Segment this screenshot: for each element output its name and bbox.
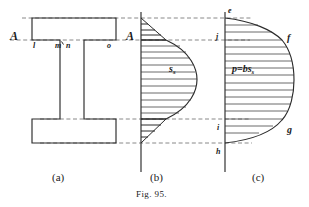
axis-label-A-right: A [126, 30, 134, 42]
panel-b-flange-bottom-triangle [141, 119, 166, 143]
corner-label-e: e [228, 7, 232, 15]
corner-label-h: h [216, 148, 220, 156]
flow-stress-subscript: s [252, 68, 255, 75]
panel-c-flow-curve [225, 18, 294, 143]
panel-caption-c: (c) [252, 172, 264, 183]
corner-label-g: g [287, 125, 292, 135]
corner-label-f: f [287, 33, 290, 43]
flange-top-taper [141, 18, 166, 40]
ibeam-outline [32, 18, 116, 143]
point-label-l: l [33, 42, 35, 50]
corner-label-i: i [217, 124, 219, 132]
figure-caption: Fig. 95. [136, 190, 167, 199]
panel-b-flange-top-triangle [141, 18, 166, 40]
point-label-m: m [55, 42, 61, 50]
point-label-n: n [66, 42, 70, 50]
panel-a-tick-marks [62, 42, 64, 45]
axis-label-A-left: A [10, 30, 18, 42]
panel-caption-b: (b) [150, 172, 163, 183]
panel-caption-a: (a) [52, 172, 64, 183]
panel-a-ibeam [32, 18, 116, 143]
stress-symbol-subscript: s [173, 68, 176, 75]
flow-outline [225, 18, 294, 143]
point-label-o: o [107, 42, 111, 50]
corner-label-j: j [216, 33, 218, 41]
tick-n [62, 42, 64, 45]
figure-95-container: A A l m n o ss p=bss e j f g i h (a) (b)… [0, 0, 309, 207]
stress-symbol-label: ss [169, 64, 176, 76]
flow-expression-label: p=bss [232, 64, 254, 76]
